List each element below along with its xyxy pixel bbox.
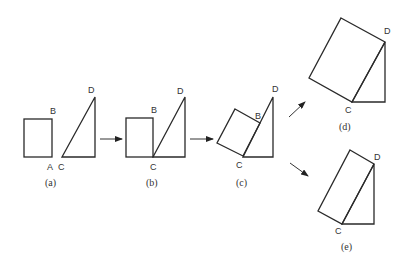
- vertex-label-b: B: [50, 106, 56, 116]
- triangle-c: [243, 97, 273, 157]
- rotated-square-c: [217, 109, 260, 156]
- vertex-label-c: C: [150, 162, 157, 172]
- vertex-label-a: A: [47, 162, 53, 172]
- triangle-a: [62, 97, 95, 157]
- vertex-label-d: D: [177, 86, 184, 96]
- vertex-label-d: D: [384, 26, 391, 36]
- vertex-label-b: B: [255, 111, 261, 121]
- arrow-c-to-d-icon: [289, 102, 305, 117]
- vertex-label-d: D: [374, 152, 381, 162]
- triangle-e: [342, 164, 374, 224]
- panel-e: D C (e): [318, 150, 381, 253]
- rotated-rectangle-e: [318, 150, 374, 224]
- panel-b: B C D (b): [126, 86, 185, 189]
- vertex-label-c: C: [335, 226, 342, 236]
- caption-a: (a): [45, 177, 56, 189]
- caption-c: (c): [236, 177, 247, 189]
- rotated-rectangle-d: [309, 18, 385, 102]
- vertex-label-d: D: [88, 85, 95, 95]
- vertex-label-c: C: [58, 162, 65, 172]
- vertex-label-d: D: [272, 84, 279, 94]
- vertex-label-c: C: [236, 160, 243, 170]
- triangle-d: [352, 42, 385, 102]
- caption-e: (e): [341, 241, 352, 253]
- caption-b: (b): [146, 177, 158, 189]
- rectangle-a: [24, 119, 52, 157]
- diagram-canvas: B A C D (a) B C D (b) B C D (c) D C (d): [0, 0, 407, 263]
- panel-d: D C (d): [309, 18, 391, 133]
- panel-a: B A C D (a): [24, 85, 95, 189]
- caption-d: (d): [339, 121, 351, 133]
- rectangle-b: [126, 118, 153, 157]
- panel-c: B C D (c): [217, 84, 279, 189]
- vertex-label-b: B: [151, 105, 157, 115]
- triangle-b: [153, 97, 185, 157]
- vertex-label-c: C: [345, 105, 352, 115]
- arrow-c-to-e-icon: [290, 163, 308, 176]
